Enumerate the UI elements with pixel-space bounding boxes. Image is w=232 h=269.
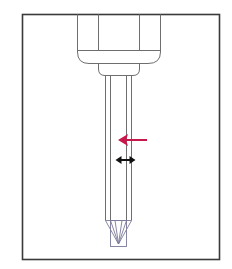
tip	[106, 221, 132, 247]
diagram-canvas	[0, 0, 232, 269]
frame-border	[23, 15, 220, 260]
red-arrow-icon	[118, 134, 147, 146]
collar	[99, 64, 140, 76]
diagram-svg	[0, 0, 232, 269]
width-double-arrow-icon	[116, 156, 136, 164]
housing	[78, 15, 161, 64]
shaft	[106, 76, 132, 221]
